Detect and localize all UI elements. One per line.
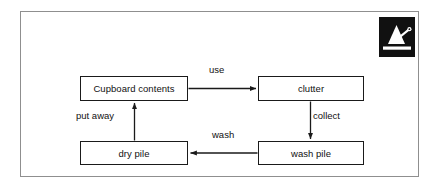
node-dry-pile[interactable]: dry pile	[80, 141, 188, 165]
edge-label-collect: collect	[313, 110, 340, 121]
node-clutter[interactable]: clutter	[258, 76, 364, 101]
node-label: dry pile	[118, 148, 149, 159]
node-label: wash pile	[291, 148, 331, 159]
edge-label-put-away: put away	[76, 110, 114, 121]
node-label: Cupboard contents	[93, 83, 174, 94]
node-wash-pile[interactable]: wash pile	[258, 141, 364, 165]
diagram-connectors	[0, 0, 437, 191]
edge-label-wash: wash	[212, 129, 234, 140]
edge-label-use: use	[209, 64, 224, 75]
node-label: clutter	[298, 83, 324, 94]
metronome-icon	[379, 17, 415, 57]
metronome-logo	[379, 17, 415, 57]
node-cupboard-contents[interactable]: Cupboard contents	[80, 76, 188, 101]
diagram-canvas: Cupboard contents clutter dry pile wash …	[0, 0, 437, 191]
